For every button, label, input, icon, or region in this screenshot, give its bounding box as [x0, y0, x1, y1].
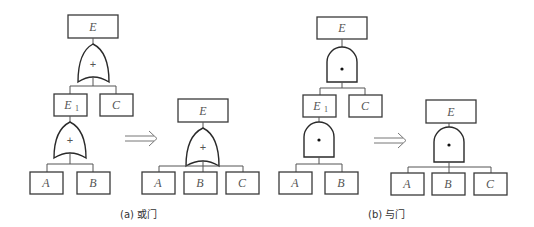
panel-b-after: E A B C	[391, 100, 507, 195]
event-label: E	[198, 104, 207, 118]
and-gate-dot-icon	[317, 138, 320, 141]
panel-a-after: E + A B C	[142, 99, 259, 194]
event-label: E	[446, 105, 455, 119]
event-label: A	[153, 176, 162, 190]
transform-arrow-icon	[374, 133, 406, 148]
event-label: B	[196, 176, 204, 190]
event-subscript: 1	[324, 105, 328, 114]
event-label: B	[89, 176, 97, 190]
caption-panel-b: (b) 与门	[368, 206, 405, 221]
and-gate-icon	[327, 47, 357, 82]
event-label: E	[337, 21, 346, 35]
or-gate-symbol: +	[200, 141, 206, 153]
event-label: A	[290, 176, 299, 190]
and-gate-dot-icon	[447, 143, 450, 146]
event-label: C	[486, 177, 495, 191]
fault-tree-diagram: E + E 1 C + A B E	[0, 0, 534, 227]
panel-a-before: E + E 1 C + A B	[30, 15, 133, 194]
event-label: C	[238, 176, 247, 190]
event-subscript: 1	[75, 104, 79, 113]
event-label: B	[337, 176, 345, 190]
event-label: C	[361, 99, 370, 113]
event-label: E	[63, 98, 72, 112]
or-gate-symbol: +	[67, 134, 73, 146]
panel-b-before: E E 1 C A B	[279, 17, 382, 194]
caption-panel-a: (a) 或门	[120, 206, 157, 221]
transform-arrow-icon	[125, 131, 157, 146]
or-gate-symbol: +	[90, 58, 96, 70]
event-label: E	[312, 99, 321, 113]
event-label: A	[402, 177, 411, 191]
event-label: B	[444, 177, 452, 191]
event-label: C	[112, 98, 121, 112]
and-gate-dot-icon	[340, 67, 343, 70]
event-label: E	[88, 20, 97, 34]
event-label: A	[41, 176, 50, 190]
